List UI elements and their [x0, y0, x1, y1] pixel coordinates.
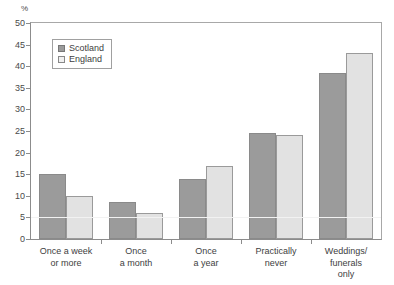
- x-axis-tick-mark: [101, 240, 102, 244]
- y-axis-tick-mark: [26, 217, 30, 218]
- bar-scotland: [249, 133, 276, 239]
- y-axis-unit-label: %: [21, 4, 28, 13]
- legend: Scotland England: [52, 39, 112, 69]
- x-axis-tick-mark: [241, 240, 242, 244]
- x-axis-category-label-line: never: [241, 258, 311, 270]
- y-axis-tick-mark: [26, 131, 30, 132]
- legend-label-scotland: Scotland: [69, 43, 104, 54]
- x-axis-tick-mark: [171, 240, 172, 244]
- bar-england: [66, 196, 93, 239]
- x-axis-category-label: Once a weekor more: [31, 246, 101, 269]
- bar-scotland: [319, 73, 346, 239]
- x-axis-tick-mark: [311, 240, 312, 244]
- y-axis-tick-mark: [26, 196, 30, 197]
- legend-item-england: England: [58, 54, 104, 65]
- x-axis-category-label-line: Practically: [241, 246, 311, 258]
- x-axis-category-label-line: funerals: [311, 258, 381, 270]
- legend-item-scotland: Scotland: [58, 43, 104, 54]
- y-axis-tick-mark: [26, 174, 30, 175]
- y-axis-tick-mark: [26, 153, 30, 154]
- x-axis-category-label-line: only: [311, 269, 381, 281]
- x-axis-category-label-line: a month: [101, 258, 171, 270]
- y-axis-tick-mark: [26, 45, 30, 46]
- bar-england: [206, 166, 233, 239]
- legend-label-england: England: [69, 54, 102, 65]
- bar-england: [276, 135, 303, 239]
- y-axis-tick-mark: [26, 109, 30, 110]
- bar-scotland: [39, 174, 66, 239]
- x-axis-category-label-line: Once: [101, 246, 171, 258]
- bar-england: [346, 53, 373, 239]
- bar-group: [319, 23, 373, 239]
- x-axis-category-label: Oncea year: [171, 246, 241, 269]
- x-axis-category-label-line: a year: [171, 258, 241, 270]
- legend-swatch-england-icon: [58, 56, 65, 63]
- y-axis-tick-mark: [26, 23, 30, 24]
- x-axis-category-label: Weddings/funeralsonly: [311, 246, 381, 281]
- x-axis-category-label-line: or more: [31, 258, 101, 270]
- y-axis-tick-mark: [26, 66, 30, 67]
- x-axis-category-label-line: Once: [171, 246, 241, 258]
- bar-group: [109, 23, 163, 239]
- bar-group: [249, 23, 303, 239]
- x-axis-category-label-line: Weddings/: [311, 246, 381, 258]
- bar-group: [179, 23, 233, 239]
- y-axis-tick-mark: [26, 88, 30, 89]
- x-axis-category-label: Oncea month: [101, 246, 171, 269]
- bar-chart: % 05101520253035404550 Once a weekor mor…: [0, 0, 394, 285]
- x-axis-category-label: Practicallynever: [241, 246, 311, 269]
- y-axis-tick-mark: [26, 239, 30, 240]
- bar-england: [136, 213, 163, 239]
- bar-scotland: [179, 179, 206, 239]
- bar-scotland: [109, 202, 136, 239]
- x-axis-category-label-line: Once a week: [31, 246, 101, 258]
- legend-swatch-scotland-icon: [58, 45, 65, 52]
